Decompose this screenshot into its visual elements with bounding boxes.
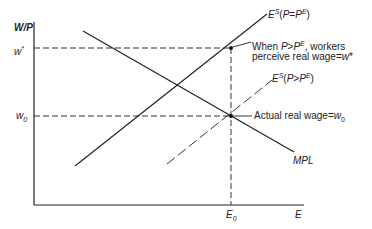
actual-annotation: Actual real wage=w0 [254, 110, 345, 125]
perceived-point [229, 46, 233, 50]
es-higher-label: ES(P>PE) [272, 70, 314, 84]
es-expected-label: ES(P=PE) [268, 6, 310, 20]
actual-point [229, 114, 233, 118]
es-expected-curve [75, 14, 267, 166]
perceived-annotation-line2: perceive real wage=w* [252, 51, 353, 62]
mpl-label: MPL [293, 155, 314, 166]
w0-tick: w0 [16, 110, 27, 125]
y-axis-label: W/P [14, 22, 33, 33]
x-axis-label: E [295, 209, 302, 220]
w-star-tick: w* [14, 43, 24, 57]
pointer-perceived [233, 42, 251, 47]
e0-tick: E0 [226, 209, 237, 224]
